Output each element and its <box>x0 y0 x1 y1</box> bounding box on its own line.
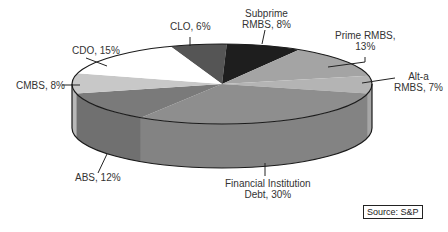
source-note: Source: S&P <box>363 205 423 219</box>
label-financial-institution-debt: Financial Institution Debt, 30% <box>225 178 311 200</box>
label-cdo: CDO, 15% <box>72 45 120 56</box>
label-fid-line1: Financial Institution <box>225 178 311 189</box>
label-subprime-line1: Subprime <box>242 8 291 19</box>
label-subprime-rmbs: Subprime RMBS, 8% <box>242 8 291 30</box>
label-prime-rmbs: Prime RMBS, 13% <box>335 30 396 52</box>
label-clo: CLO, 6% <box>170 21 211 32</box>
label-prime-line2: 13% <box>335 41 396 52</box>
label-alta-rmbs: Alt-a RMBS, 7% <box>394 71 443 93</box>
label-abs: ABS, 12% <box>75 172 121 183</box>
label-cmbs: CMBS, 8% <box>16 80 65 91</box>
label-alta-line1: Alt-a <box>394 71 443 82</box>
label-alta-line2: RMBS, 7% <box>394 82 443 93</box>
label-subprime-line2: RMBS, 8% <box>242 19 291 30</box>
label-fid-line2: Debt, 30% <box>225 189 311 200</box>
label-prime-line1: Prime RMBS, <box>335 30 396 41</box>
